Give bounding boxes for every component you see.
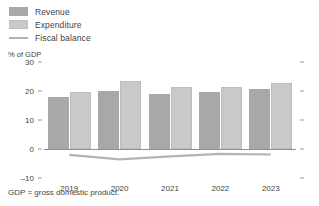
legend-item-label: Revenue (35, 7, 70, 17)
y-axis-tick-mark (38, 91, 42, 92)
square-swatch-icon (9, 20, 28, 29)
legend-item-label: Fiscal balance (35, 33, 91, 43)
chart-figure: Revenue Expenditure Fiscal balance % of … (0, 0, 319, 206)
y-axis-tick-mark (38, 62, 42, 63)
plot-area: 3020100–10 20192020202120222023 (44, 62, 296, 178)
chart-legend: Revenue Expenditure Fiscal balance (9, 6, 169, 45)
x-axis-tick-label: 2022 (211, 184, 229, 193)
footnote: GDP = gross domestic product. (8, 188, 119, 197)
y-axis-tick-mark (300, 178, 304, 179)
y-axis-tick-label: 0 (30, 145, 34, 154)
y-axis-tick-mark (300, 120, 304, 121)
y-axis-tick-mark (38, 120, 42, 121)
y-axis-tick-label: 30 (25, 58, 34, 67)
y-axis-tick-label: 20 (25, 87, 34, 96)
x-axis-tick-label: 2023 (262, 184, 280, 193)
legend-item-revenue: Revenue (9, 6, 169, 17)
legend-item-expenditure: Expenditure (9, 19, 169, 30)
square-swatch-icon (9, 7, 28, 16)
y-axis-tick-mark (38, 149, 42, 150)
x-axis-tick-label: 2021 (161, 184, 179, 193)
line-swatch-icon (9, 33, 28, 42)
y-axis-tick-mark (300, 62, 304, 63)
y-axis-tick-mark (300, 91, 304, 92)
legend-item-fiscal-balance: Fiscal balance (9, 32, 169, 43)
y-axis-tick-label: –10 (21, 174, 34, 183)
y-axis-tick-mark (38, 178, 42, 179)
legend-item-label: Expenditure (35, 20, 81, 30)
y-axis-tick-label: 10 (25, 116, 34, 125)
y-axis-tick-mark (300, 149, 304, 150)
fiscal-balance-line (44, 62, 296, 178)
